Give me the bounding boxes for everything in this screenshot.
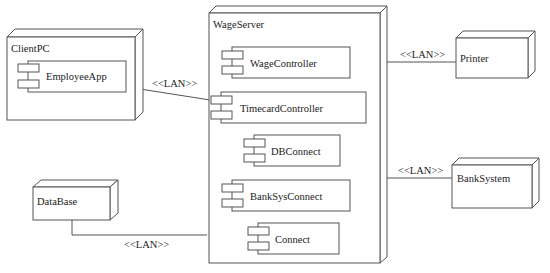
node-label: DataBase bbox=[37, 196, 78, 207]
component-employeeapp[interactable]: EmployeeApp bbox=[18, 61, 126, 92]
component-icon bbox=[244, 154, 265, 162]
node-wageserver[interactable]: WageServer WageController TimecardContro… bbox=[209, 6, 387, 263]
node-printer[interactable]: Printer bbox=[456, 31, 535, 78]
component-icon bbox=[18, 80, 39, 88]
node-banksystem[interactable]: BankSystem bbox=[452, 158, 539, 208]
node-clientpc[interactable]: ClientPC EmployeeApp bbox=[7, 29, 143, 120]
component-label: EmployeeApp bbox=[46, 71, 107, 82]
component-wagecontroller[interactable]: WageController bbox=[222, 47, 350, 78]
connection-label: <<LAN>> bbox=[152, 78, 197, 89]
component-label: Connect bbox=[275, 234, 310, 245]
connection-label: <<LAN>> bbox=[124, 239, 169, 250]
component-banksysconnect[interactable]: BankSysConnect bbox=[222, 180, 350, 211]
node-label: BankSystem bbox=[457, 173, 510, 184]
node-label: WageServer bbox=[213, 19, 265, 30]
component-label: TimecardController bbox=[240, 103, 324, 114]
deployment-diagram: <<LAN>> <<LAN>> <<LAN>> <<LAN>> ClientPC… bbox=[0, 0, 550, 273]
component-icon bbox=[244, 139, 265, 147]
connection-database-server: <<LAN>> bbox=[72, 220, 207, 250]
connection-label: <<LAN>> bbox=[400, 49, 445, 60]
component-icon bbox=[211, 111, 232, 119]
component-icon bbox=[222, 199, 243, 207]
component-icon bbox=[18, 64, 39, 72]
node-label: Printer bbox=[460, 53, 489, 64]
component-label: DBConnect bbox=[271, 146, 321, 157]
component-icon bbox=[211, 96, 232, 104]
component-icon bbox=[222, 51, 243, 59]
node-label: ClientPC bbox=[11, 43, 50, 54]
connection-server-banksystem: <<LAN>> bbox=[387, 165, 452, 178]
connection-client-server: <<LAN>> bbox=[140, 78, 210, 100]
component-timecardcontroller[interactable]: TimecardController bbox=[211, 92, 366, 123]
connection-label: <<LAN>> bbox=[398, 165, 443, 176]
component-icon bbox=[222, 184, 243, 192]
component-icon bbox=[248, 227, 269, 235]
connection-server-printer: <<LAN>> bbox=[387, 49, 456, 62]
component-label: BankSysConnect bbox=[250, 191, 322, 202]
node-database[interactable]: DataBase bbox=[33, 180, 118, 220]
component-dbconnect[interactable]: DBConnect bbox=[244, 135, 340, 166]
component-label: WageController bbox=[250, 58, 317, 69]
component-icon bbox=[248, 242, 269, 250]
component-connect[interactable]: Connect bbox=[248, 223, 339, 254]
component-icon bbox=[222, 66, 243, 74]
